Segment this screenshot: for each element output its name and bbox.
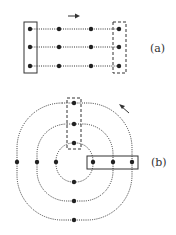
right-arrow-icon — [68, 14, 80, 19]
counterclockwise-arrow-icon — [119, 104, 129, 113]
loop-nodes — [15, 101, 134, 222]
panel-a-label: (a) — [150, 42, 165, 55]
panel-b — [15, 98, 138, 222]
dotted-rows — [30, 29, 119, 66]
panel-a — [24, 14, 126, 74]
panel-b-label: (b) — [151, 156, 167, 169]
figure-canvas: (a) (b) — [0, 0, 176, 235]
